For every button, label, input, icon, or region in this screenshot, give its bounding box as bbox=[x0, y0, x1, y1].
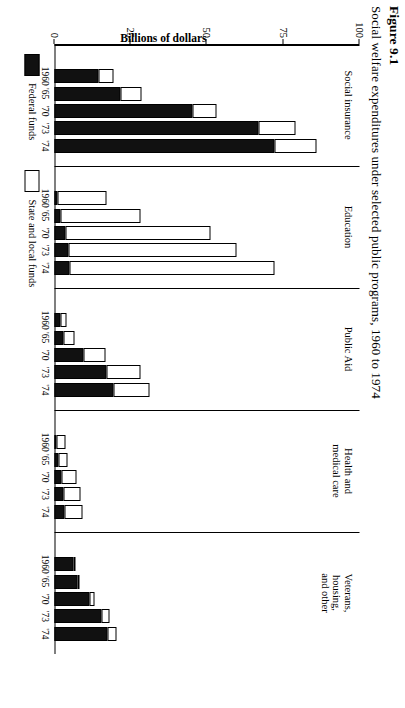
bar-stack bbox=[54, 435, 65, 449]
bar-stack bbox=[54, 592, 94, 606]
bar-segment-state-local bbox=[89, 592, 94, 606]
year-label: '73 bbox=[39, 367, 49, 378]
bar-stack bbox=[54, 261, 274, 275]
bar-segment-state-local bbox=[65, 226, 211, 240]
bar-segment-federal bbox=[54, 121, 258, 135]
year-label: '70 bbox=[39, 105, 49, 116]
category-separator bbox=[54, 288, 359, 289]
year-label: '74 bbox=[39, 506, 49, 517]
bar-stack bbox=[54, 609, 109, 623]
bar-segment-state-local bbox=[61, 470, 76, 484]
year-label: '65 bbox=[39, 576, 49, 587]
bar-stack bbox=[54, 470, 76, 484]
bar-segment-state-local bbox=[63, 487, 79, 501]
bar-segment-state-local bbox=[107, 627, 116, 641]
bar-stack bbox=[54, 383, 149, 397]
bar-stack bbox=[54, 348, 105, 362]
year-label: '73 bbox=[39, 123, 49, 134]
bar-segment-federal bbox=[54, 87, 120, 101]
year-label: '65 bbox=[39, 210, 49, 221]
bar-stack bbox=[54, 453, 67, 467]
bar-segment-federal bbox=[54, 453, 58, 467]
bar-segment-state-local bbox=[113, 383, 148, 397]
axis-tick-label: 25 bbox=[125, 28, 136, 45]
category-label: Education bbox=[342, 166, 354, 288]
bar-segment-federal bbox=[54, 139, 274, 153]
year-label: '74 bbox=[39, 384, 49, 395]
year-label: 1960 bbox=[39, 555, 49, 574]
bar-segment-state-local bbox=[83, 348, 105, 362]
bar-segment-federal bbox=[54, 365, 106, 379]
year-label: 1960 bbox=[39, 189, 49, 208]
bar-segment-federal bbox=[54, 69, 98, 83]
bar-segment-federal bbox=[54, 209, 60, 223]
bar-stack bbox=[54, 365, 140, 379]
bar-segment-state-local bbox=[69, 261, 273, 275]
year-label: '74 bbox=[39, 628, 49, 639]
bar-segment-state-local bbox=[77, 575, 79, 589]
year-label: '70 bbox=[39, 471, 49, 482]
bar-segment-state-local bbox=[64, 505, 82, 519]
bar-stack bbox=[54, 243, 236, 257]
figure-canvas: Figure 9.1 Social welfare expenditures u… bbox=[0, 0, 405, 708]
year-label: 1960 bbox=[39, 311, 49, 330]
year-label: 1960 bbox=[39, 433, 49, 452]
year-label: '74 bbox=[39, 262, 49, 273]
bar-segment-state-local bbox=[73, 557, 75, 571]
bar-stack bbox=[54, 627, 116, 641]
legend-label-state-local: State and local funds bbox=[26, 199, 37, 287]
bar-stack bbox=[54, 191, 106, 205]
bar-segment-state-local bbox=[60, 209, 140, 223]
axis-tick-label: 0 bbox=[49, 33, 60, 44]
category-separator bbox=[54, 532, 359, 533]
figure-number: Figure 9.1 bbox=[385, 6, 401, 399]
state-local-swatch-icon bbox=[24, 170, 39, 192]
bar-segment-state-local bbox=[106, 365, 140, 379]
bar-segment-state-local bbox=[258, 121, 295, 135]
category-label: Social insurance bbox=[342, 44, 354, 166]
year-label: '73 bbox=[39, 489, 49, 500]
bar-segment-federal bbox=[54, 627, 107, 641]
bar-segment-state-local bbox=[120, 87, 140, 101]
bar-segment-state-local bbox=[63, 331, 73, 345]
bar-stack bbox=[54, 487, 80, 501]
category-label: Health and medical care bbox=[330, 410, 353, 532]
bar-segment-federal bbox=[54, 383, 113, 397]
bar-segment-federal bbox=[54, 609, 101, 623]
legend: Federal funds State and local funds bbox=[24, 54, 39, 287]
year-label: '65 bbox=[39, 454, 49, 465]
year-label: '65 bbox=[39, 332, 49, 343]
value-axis-line bbox=[54, 44, 359, 46]
category-label: Veterans, housing, and other bbox=[319, 532, 354, 654]
year-label: '70 bbox=[39, 227, 49, 238]
bar-stack bbox=[54, 226, 210, 240]
bar-stack bbox=[54, 121, 295, 135]
bar-stack bbox=[54, 87, 141, 101]
bar-stack bbox=[54, 557, 74, 571]
category-separator bbox=[54, 410, 359, 411]
year-label: '73 bbox=[39, 611, 49, 622]
bar-stack bbox=[54, 331, 74, 345]
bar-segment-federal bbox=[54, 313, 60, 327]
bar-segment-state-local bbox=[57, 191, 106, 205]
year-label: '65 bbox=[39, 88, 49, 99]
legend-item-federal: Federal funds bbox=[24, 54, 39, 140]
bar-stack bbox=[54, 69, 113, 83]
category-separator bbox=[54, 166, 359, 167]
bar-stack bbox=[54, 505, 82, 519]
bar-segment-federal bbox=[54, 592, 89, 606]
bar-segment-federal bbox=[54, 191, 57, 205]
bar-stack bbox=[54, 139, 316, 153]
category-label: Public Aid bbox=[342, 288, 354, 410]
bar-segment-federal bbox=[54, 226, 65, 240]
bar-stack bbox=[54, 575, 79, 589]
bar-segment-federal bbox=[54, 487, 63, 501]
bar-segment-federal bbox=[54, 505, 64, 519]
bar-segment-federal bbox=[54, 331, 63, 345]
federal-swatch-icon bbox=[24, 54, 39, 76]
bar-segment-state-local bbox=[58, 453, 68, 467]
bar-stack bbox=[54, 313, 66, 327]
bar-segment-state-local bbox=[274, 139, 317, 153]
plot-area: Billions of dollars 0255075100 Social in… bbox=[54, 44, 359, 654]
year-label: 1960 bbox=[39, 67, 49, 86]
